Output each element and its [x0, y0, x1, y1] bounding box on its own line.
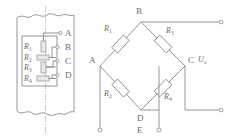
bridge-node-label-b: B	[136, 6, 142, 16]
bridge-label-r1: R1	[103, 24, 112, 34]
specimen-group: R1 R2 R3 R4 A B C	[17, 6, 74, 133]
figure-strain-gauge-bridge: R1 R2 R3 R4 A B C	[0, 0, 235, 139]
bridge-node-label-d: D	[137, 113, 144, 123]
bridge-group: R1 R3 R2 R4 B A C D E Uo	[89, 6, 223, 135]
specimen-lead-b2	[49, 47, 56, 58]
gauge-r1	[41, 41, 46, 52]
bridge-label-r4: R4	[163, 92, 172, 102]
bridge-resistor-r2	[112, 79, 129, 97]
gauge-r2	[37, 55, 49, 60]
specimen-label-a: A	[65, 28, 72, 38]
specimen-terminal-c	[56, 59, 59, 62]
bridge-node-label-a: A	[89, 55, 96, 65]
gauge-r2-label: R2	[23, 53, 32, 63]
gauge-r1-label: R1	[23, 42, 32, 52]
specimen-terminal-b	[56, 45, 59, 48]
bridge-output-label: Uo	[198, 55, 207, 65]
specimen-label-c: C	[65, 56, 71, 66]
specimen-label-b: B	[65, 42, 71, 52]
bridge-terminal-e-bottom	[157, 128, 161, 132]
bridge-terminal-a-bottom	[98, 128, 102, 132]
gauge-r3-label: R3	[23, 63, 32, 73]
specimen-lead-c2	[46, 61, 56, 67]
bridge-terminal-c-right	[219, 108, 223, 112]
bridge-terminal-b-right	[219, 20, 223, 24]
specimen-lead-d2	[49, 75, 56, 79]
bridge-resistor-r1	[112, 35, 129, 53]
bridge-resistor-r4	[154, 79, 172, 97]
gauge-r4	[37, 76, 49, 81]
gauge-r3	[41, 62, 46, 73]
bridge-lead-c-right	[185, 66, 219, 110]
bridge-resistor-r3	[154, 35, 172, 53]
specimen-terminal-d	[56, 73, 59, 76]
gauge-r4-label: R4	[23, 74, 32, 84]
bridge-label-r2: R2	[103, 89, 112, 99]
bridge-node-label-c: C	[188, 55, 194, 65]
specimen-terminal-a	[59, 31, 62, 34]
bridge-node-label-e: E	[137, 125, 143, 135]
specimen-label-d: D	[65, 70, 72, 80]
bridge-label-r3: R3	[165, 26, 174, 36]
